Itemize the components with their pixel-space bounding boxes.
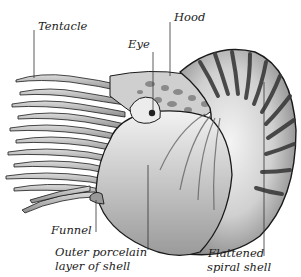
eye-icon [149, 110, 155, 116]
funnel [90, 192, 104, 204]
outer-porcelain-shell [96, 111, 232, 255]
label-hood: Hood [174, 11, 205, 23]
label-flattened-line2: spiral shell [207, 261, 271, 273]
label-tentacle: Tentacle [38, 20, 87, 32]
nautilus-illustration [0, 0, 301, 277]
label-flattened-line1: Flattened [208, 247, 264, 259]
label-funnel: Funnel [51, 224, 92, 236]
label-outer-porcelain-line1: Outer porcelain [55, 246, 147, 258]
label-eye: Eye [128, 38, 150, 50]
label-outer-porcelain-line2: layer of shell [55, 260, 130, 272]
